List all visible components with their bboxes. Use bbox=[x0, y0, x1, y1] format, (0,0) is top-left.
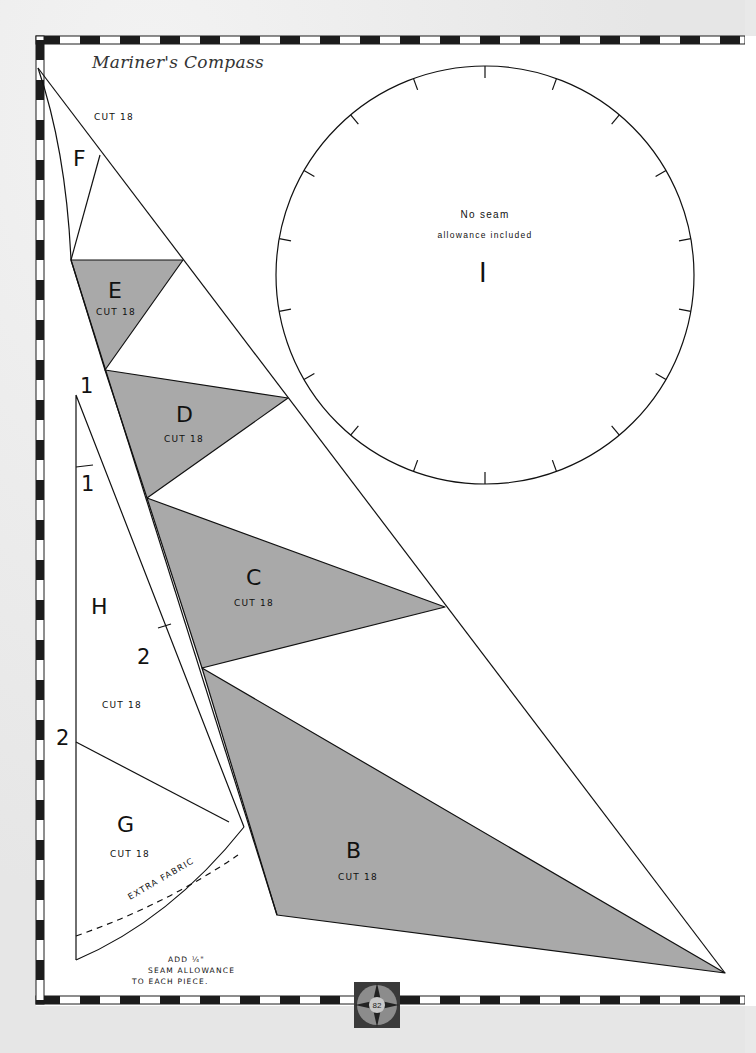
piece-d-letter: D bbox=[176, 402, 193, 427]
page-title: Mariner's Compass bbox=[92, 52, 264, 72]
match-marker-2-right: 2 bbox=[137, 645, 150, 669]
piece-f-cut-label: CUT 18 bbox=[94, 112, 134, 122]
piece-d-cut-label: CUT 18 bbox=[164, 434, 204, 444]
piece-b-cut-label: CUT 18 bbox=[338, 872, 378, 882]
extra-fabric-dashed-line bbox=[76, 855, 238, 936]
piece-b-letter: B bbox=[346, 838, 361, 863]
seam-note-line2: SEAM ALLOWANCE bbox=[148, 966, 235, 975]
piece-g-letter: G bbox=[117, 812, 134, 837]
piece-b-shape bbox=[202, 668, 725, 973]
seam-note-line3: TO EACH PIECE. bbox=[132, 977, 209, 986]
piece-i-letter: I bbox=[479, 258, 487, 288]
page-number: 82 bbox=[373, 1001, 382, 1010]
piece-g-bottom-curve bbox=[76, 827, 244, 960]
match-marker-2-left: 2 bbox=[56, 726, 69, 750]
piece-h-cut-label: CUT 18 bbox=[102, 700, 142, 710]
match-marker-1-mid: 1 bbox=[81, 472, 94, 496]
piece-e-letter: E bbox=[108, 278, 122, 303]
seam-note-line1: ADD ¼" bbox=[168, 955, 205, 964]
piece-e-cut-label: CUT 18 bbox=[96, 307, 136, 317]
match-marker-1-top: 1 bbox=[80, 374, 93, 398]
page-number-medallion: 82 bbox=[354, 982, 400, 1028]
page-number-disc: 82 bbox=[369, 997, 385, 1013]
piece-c-letter: C bbox=[246, 565, 261, 590]
piece-g-divider bbox=[76, 742, 229, 822]
piece-h-letter: H bbox=[91, 594, 108, 619]
piece-c-cut-label: CUT 18 bbox=[234, 598, 274, 608]
piece-i-note-line1: No seam bbox=[385, 205, 585, 225]
piece-i-note: No seam allowance included bbox=[385, 205, 585, 245]
piece-i-note-line2: allowance included bbox=[385, 225, 585, 245]
piece-g-cut-label: CUT 18 bbox=[110, 849, 150, 859]
piece-f-letter: F bbox=[73, 146, 86, 171]
